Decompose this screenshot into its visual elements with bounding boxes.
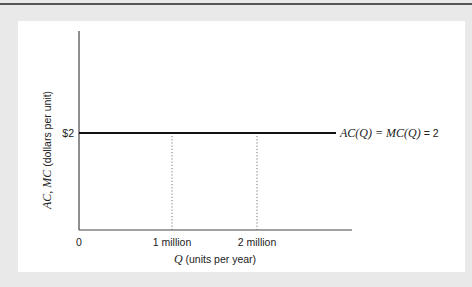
y-axis-label: AC, MC (dollars per unit) [40, 91, 54, 210]
chart: $2 0 1 million 2 million Q (units per ye… [0, 0, 472, 287]
series-label: AC(Q) = MC(Q) = 2 [339, 126, 439, 140]
x-axis-label: Q (units per year) [174, 252, 256, 266]
series-label-rest: = 2 [421, 127, 439, 139]
y-axis-label-var: AC, MC [40, 169, 54, 210]
x-tick-0: 0 [76, 236, 82, 248]
x-axis-label-rest: (units per year) [183, 253, 257, 265]
series-label-italic: AC(Q) = MC(Q) [339, 126, 421, 140]
x-axis-label-var: Q [174, 252, 183, 266]
x-tick-1-million: 1 million [153, 236, 192, 248]
y-axis-label-rest: (dollars per unit) [41, 91, 53, 170]
y-tick-2: $2 [62, 127, 74, 139]
x-tick-2-million: 2 million [238, 236, 277, 248]
